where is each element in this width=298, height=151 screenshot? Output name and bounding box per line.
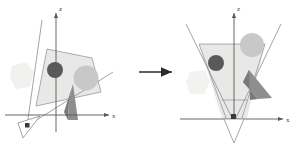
camera-origin-dot-left [25, 123, 30, 128]
dark-sphere-right [208, 55, 224, 71]
light-sphere-right [240, 33, 264, 57]
light-sphere [74, 66, 99, 91]
dark-sphere [47, 62, 63, 78]
faint-blob [10, 62, 34, 89]
camera-triangle-right [224, 119, 244, 143]
left-panel: z x [5, 5, 116, 138]
x-axis-label-right: x [286, 116, 290, 124]
figure-container: z x z x [0, 0, 298, 151]
z-axis-label-right: z [237, 5, 240, 13]
x-axis-label-left: x [112, 112, 116, 120]
z-axis-label-left: z [59, 5, 62, 13]
right-panel: z x [180, 5, 290, 143]
diagram-svg: z x z x [0, 0, 298, 151]
camera-origin-dot-right [231, 114, 236, 119]
faint-blob-right [186, 70, 210, 94]
